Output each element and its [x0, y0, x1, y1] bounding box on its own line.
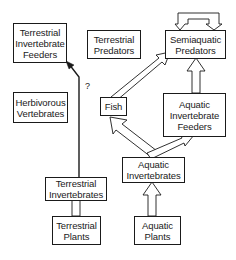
- node-terrestrial-invertebrates: Terrestrial Invertebrates: [45, 177, 107, 201]
- uncertain-link-label: ?: [85, 81, 90, 91]
- node-semiaquatic-predators: Semiaquatic Predators: [165, 30, 226, 59]
- arrow-aquatic-invertebrates-to-fish: [110, 117, 157, 157]
- node-aquatic-invertebrate-feeders: Aquatic Invertebrate Feeders: [163, 93, 226, 137]
- food-web-diagram: ? Terrestrial Invertebrate Feeders Terre…: [0, 0, 236, 260]
- arrow-fish-to-semiaquatic-predators: [111, 52, 170, 101]
- arrow-aquatic-plants-to-aquatic-invertebrates: [143, 182, 161, 216]
- node-terrestrial-invertebrate-feeders: Terrestrial Invertebrate Feeders: [13, 23, 67, 63]
- node-fish: Fish: [100, 97, 127, 116]
- node-terrestrial-predators: Terrestrial Predators: [87, 30, 141, 59]
- node-herbivorous-vertebrates: Herbivorous Vertebrates: [13, 92, 68, 123]
- node-aquatic-invertebrates: Aquatic Invertebrates: [122, 157, 185, 183]
- node-terrestrial-plants: Terrestrial Plants: [52, 216, 101, 245]
- node-aquatic-plants: Aquatic Plants: [134, 216, 181, 245]
- arrow-terrestrial-invertebrates-to-terrestrial-invertebrate-feeders: [69, 64, 79, 177]
- arrow-aquatic-invertebrates-to-aquatic-invertebrate-feeders: [147, 134, 194, 159]
- arrow-aquatic-invertebrate-feeders-to-semiaquatic-predators: [187, 58, 205, 93]
- arrow-semiaquatic-predators-self-loop: [175, 13, 222, 30]
